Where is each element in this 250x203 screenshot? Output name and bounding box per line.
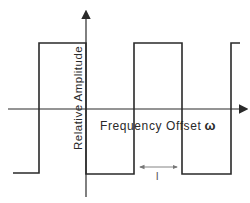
diagram-canvas (0, 0, 250, 203)
omega-symbol: ω (204, 118, 216, 133)
y-axis-label: Relative Amplitude (72, 46, 84, 150)
x-axis-label-text: Frequency Offset (100, 119, 201, 133)
x-axis-label: Frequency Offsetω (100, 118, 216, 133)
interval-label: l (156, 170, 158, 182)
